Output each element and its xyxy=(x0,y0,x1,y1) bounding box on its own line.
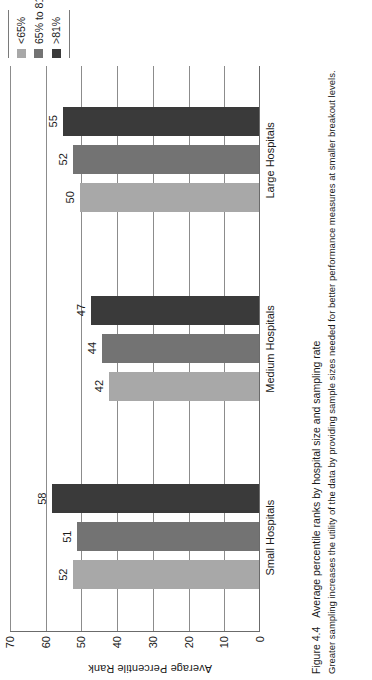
rotated-figure-canvas: Average Percentile Rank 010203040506070 … xyxy=(0,0,372,680)
legend-item[interactable]: >81% xyxy=(51,0,62,58)
y-axis-tick: 10 xyxy=(219,636,230,660)
y-axis-tick-labels: 010203040506070 xyxy=(10,634,260,660)
caption-title-text: Average percentile ranks by hospital siz… xyxy=(310,341,322,618)
bar-wrap: 51 xyxy=(10,522,259,551)
y-axis-tick: 30 xyxy=(147,636,158,660)
bar[interactable] xyxy=(73,560,259,589)
bar-wrap: 58 xyxy=(10,484,259,513)
bar-value-label: 50 xyxy=(65,191,76,203)
bar-group: 525158 xyxy=(10,442,259,631)
bar[interactable] xyxy=(91,296,259,325)
bar-value-label: 42 xyxy=(94,380,105,392)
legend-label: <65% xyxy=(16,17,27,44)
bar[interactable] xyxy=(52,484,259,513)
figure-4-4: Average Percentile Rank 010203040506070 … xyxy=(0,0,372,680)
y-axis-tick: 50 xyxy=(76,636,87,660)
legend-items: <65%65% to 81%>81% xyxy=(16,0,62,58)
bar[interactable] xyxy=(63,107,259,136)
bar-wrap: 47 xyxy=(10,296,259,325)
legend-label: >81% xyxy=(51,17,62,44)
bar-series-container: 525158424447505255 xyxy=(10,66,259,631)
plot-area: 525158424447505255 xyxy=(10,66,260,632)
legend-bottom-rule xyxy=(69,10,70,58)
y-axis-tick: 0 xyxy=(255,636,266,660)
bar[interactable] xyxy=(80,183,259,212)
y-axis-tick: 20 xyxy=(183,636,194,660)
bar-wrap: 52 xyxy=(10,560,259,589)
category-label: Small Hospitals xyxy=(264,500,276,576)
bar-value-label: 51 xyxy=(62,531,73,543)
caption-title-line: Figure 4.4Average percentile ranks by ho… xyxy=(310,6,323,674)
bar-value-label: 58 xyxy=(37,493,48,505)
category-axis-labels: Small HospitalsMedium HospitalsLarge Hos… xyxy=(264,66,284,632)
bar-value-label: 47 xyxy=(76,304,87,316)
bar-chart: Average Percentile Rank 010203040506070 … xyxy=(0,0,300,680)
category-label: Medium Hospitals xyxy=(264,305,276,392)
bar[interactable] xyxy=(109,372,259,401)
bar-value-label: 55 xyxy=(48,115,59,127)
bar[interactable] xyxy=(73,145,259,174)
legend-label: 65% to 81% xyxy=(34,0,45,44)
bar-value-label: 52 xyxy=(58,569,69,581)
figure-caption: Figure 4.4Average percentile ranks by ho… xyxy=(310,6,338,674)
figure-page: Average Percentile Rank 010203040506070 … xyxy=(0,0,372,680)
chart-legend: <65%65% to 81%>81% xyxy=(8,0,70,58)
bar-wrap: 42 xyxy=(10,372,259,401)
legend-swatch xyxy=(17,49,26,58)
y-axis-tick: 40 xyxy=(112,636,123,660)
bar-wrap: 52 xyxy=(10,145,259,174)
y-axis-tick: 70 xyxy=(5,636,16,660)
category-label: Large Hospitals xyxy=(264,122,276,198)
bar[interactable] xyxy=(77,522,259,551)
bar-wrap: 44 xyxy=(10,334,259,363)
bar[interactable] xyxy=(102,334,259,363)
caption-figure-number: Figure 4.4 xyxy=(310,627,322,674)
caption-note: Greater sampling increases the utility o… xyxy=(326,6,338,674)
bar-wrap: 50 xyxy=(10,183,259,212)
legend-swatch xyxy=(52,49,61,58)
y-axis-tick: 60 xyxy=(40,636,51,660)
bar-value-label: 44 xyxy=(87,342,98,354)
bar-value-label: 52 xyxy=(58,153,69,165)
y-axis-title: Average Percentile Rank xyxy=(0,660,300,678)
legend-swatch xyxy=(34,49,43,58)
bar-group: 424447 xyxy=(10,254,259,443)
legend-item[interactable]: <65% xyxy=(16,0,27,58)
legend-top-rule xyxy=(8,10,9,58)
bar-wrap: 55 xyxy=(10,107,259,136)
legend-item[interactable]: 65% to 81% xyxy=(34,0,45,58)
bar-group: 505255 xyxy=(10,65,259,254)
